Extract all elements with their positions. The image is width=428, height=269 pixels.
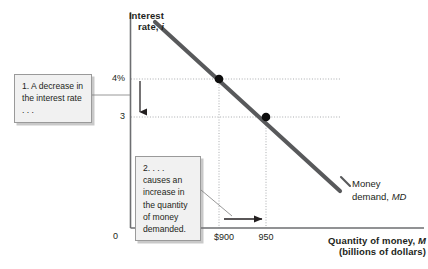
curve-label-line2: demand,	[352, 191, 392, 202]
x-tick-label-900: $900	[207, 232, 241, 242]
callout-interest-rate-decrease: 1. A decrease in the interest rate . . .	[14, 74, 92, 123]
figure-graphics	[0, 0, 428, 269]
curve-label-line1: Money	[352, 178, 381, 189]
callout-2-leader	[201, 190, 232, 216]
x-axis-title: Quantity of money, M(billions of dollars…	[284, 235, 426, 257]
y-axis-title-line1: Interest	[129, 10, 164, 21]
y-axis-title: Interestrate, i	[104, 10, 164, 32]
curve-label-pointer	[341, 177, 350, 186]
x-axis-title-line1: Quantity of money,	[328, 235, 418, 246]
y-tick-label-3: 3	[101, 111, 125, 121]
data-point-950-3	[262, 113, 271, 122]
origin-label: 0	[113, 231, 118, 241]
money-demand-figure: Interestrate, i 4% 3 0 $900 950 Quantity…	[0, 0, 428, 269]
x-axis-title-line2: (billions of dollars)	[339, 246, 426, 257]
y-axis-title-line2: rate,	[138, 21, 161, 32]
x-axis-title-symbol: M	[418, 235, 426, 246]
callout-quantity-increase: 2. . . . causes an increase in the quant…	[135, 156, 201, 241]
x-tick-label-950: 950	[250, 232, 282, 242]
data-point-900-4	[215, 75, 224, 84]
y-tick-label-4pct: 4%	[101, 73, 125, 83]
curve-label-symbol: MD	[392, 191, 407, 202]
money-demand-curve-label: Moneydemand, MD	[352, 178, 406, 203]
y-axis-title-symbol: i	[161, 21, 164, 32]
